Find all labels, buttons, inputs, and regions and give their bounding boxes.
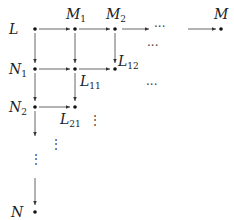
- lattice-diagram: L M1 M2 M N1 L11 L12 N2 L21 N ··· ··· ··…: [0, 0, 234, 220]
- ellipsis-col0: ⋮: [30, 152, 42, 166]
- label-L: L: [8, 21, 18, 37]
- node-L12: [113, 67, 117, 71]
- label-N: N: [10, 204, 24, 220]
- ellipsis-row1: ···: [146, 78, 157, 92]
- label-L21: L21: [59, 111, 81, 129]
- node-N: [33, 210, 37, 214]
- ellipsis-row0: ···: [154, 20, 165, 34]
- node-M2: [113, 27, 117, 31]
- node-N2: [33, 105, 37, 109]
- node-M: [219, 27, 223, 31]
- node-M1: [73, 27, 77, 31]
- label-N1: N1: [8, 61, 27, 79]
- node-L21: [73, 105, 77, 109]
- ellipsis-col-right: ⋮: [89, 113, 101, 127]
- label-M1: M1: [65, 6, 86, 24]
- node-L: [33, 27, 37, 31]
- label-M2: M2: [105, 6, 126, 24]
- ellipsis-col-mid: ⋮: [50, 137, 62, 151]
- label-L11: L11: [79, 73, 101, 91]
- ellipsis-diag-upper: ···: [147, 39, 158, 53]
- label-L12: L12: [117, 53, 139, 71]
- label-N2: N2: [8, 99, 27, 117]
- node-L11: [73, 67, 77, 71]
- label-M: M: [213, 6, 229, 22]
- node-N1: [33, 67, 37, 71]
